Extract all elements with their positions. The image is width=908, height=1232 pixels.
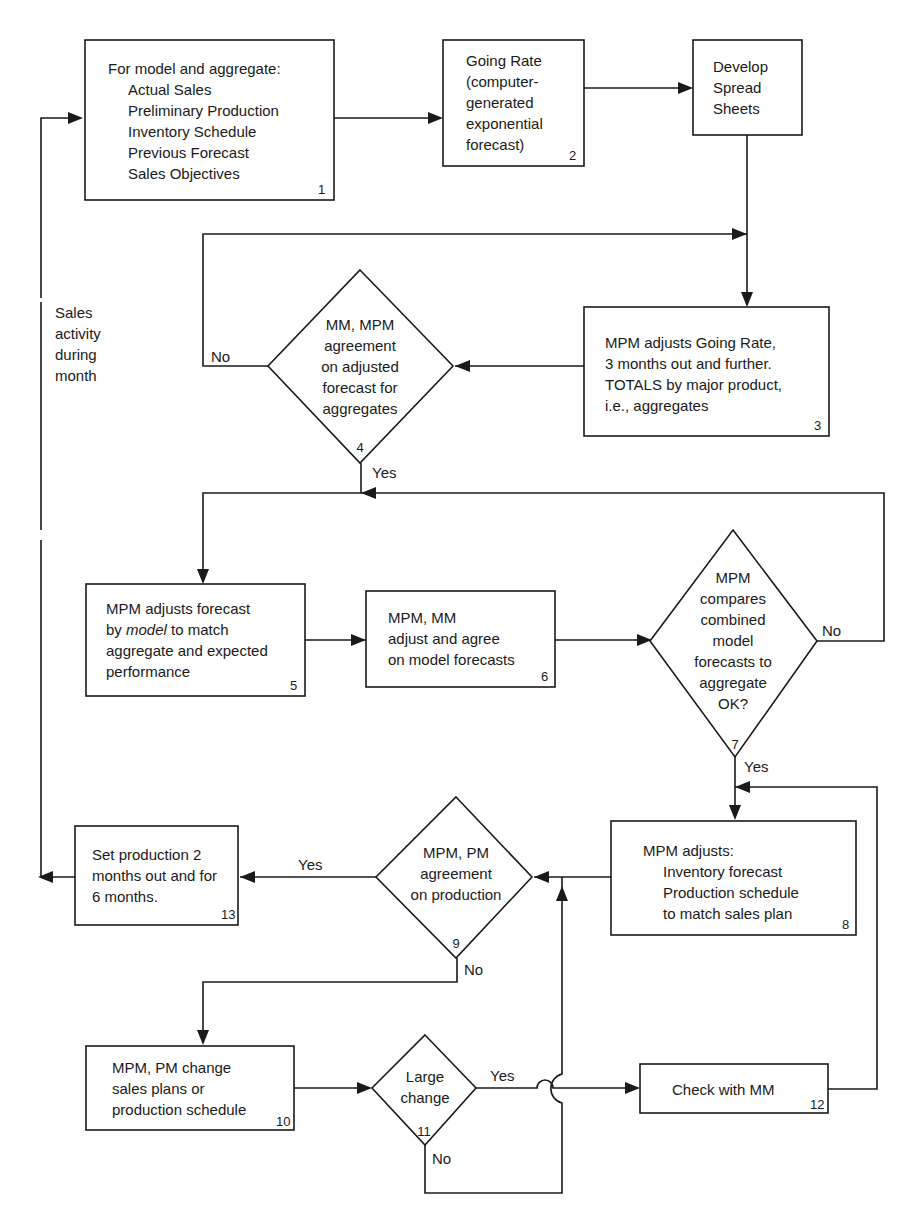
diamond-11-line: change: [400, 1089, 449, 1106]
arrow-into-4: [455, 360, 470, 372]
sales-activity-line: Sales: [55, 304, 93, 321]
box-13-line: Set production 2: [92, 846, 201, 863]
label-4-yes: Yes: [372, 464, 396, 481]
arrow-into-12: [625, 1082, 640, 1094]
step-number: 5: [290, 678, 297, 693]
box-5-line: MPM adjusts forecast: [106, 600, 251, 617]
diamond-7-line: forecasts to: [694, 653, 772, 670]
box-spread-line: Sheets: [713, 100, 760, 117]
label-7-yes: Yes: [744, 758, 768, 775]
box-12-line: Check with MM: [672, 1081, 775, 1098]
box-1-line: Actual Sales: [128, 81, 211, 98]
box-5-word: to match: [171, 621, 229, 638]
box-1-line: Preliminary Production: [128, 102, 279, 119]
diamond-7-line: model: [713, 632, 754, 649]
box-8-line: to match sales plan: [663, 905, 792, 922]
box-13-line: months out and for: [92, 867, 217, 884]
arrow-into-1: [68, 112, 83, 124]
label-9-yes: Yes: [298, 856, 322, 873]
box-1-line: Previous Forecast: [128, 144, 250, 161]
step-number: 4: [356, 440, 363, 455]
diamond-7-line: aggregate: [699, 674, 767, 691]
label-7-no: No: [822, 622, 841, 639]
edge-labels: No Yes No Yes Yes No Yes No: [211, 348, 841, 1167]
label-9-no: No: [464, 961, 483, 978]
arrow-up-to-9: [556, 886, 568, 901]
box-10-line: sales plans or: [112, 1080, 205, 1097]
arrow-into-8: [729, 805, 741, 820]
step-number: 12: [810, 1097, 824, 1112]
box-5-italic-word: model: [126, 621, 168, 638]
box-5-line: performance: [106, 663, 190, 680]
box-5-line: by model to match: [106, 621, 229, 638]
box-3-line: 3 months out and further.: [605, 355, 772, 372]
label-4-no: No: [211, 348, 230, 365]
step-number: 3: [814, 418, 821, 433]
box-1-line: Inventory Schedule: [128, 123, 256, 140]
step-number: 6: [541, 669, 548, 684]
box-2-line: Going Rate: [466, 52, 542, 69]
box-10-line: production schedule: [112, 1101, 246, 1118]
label-11-no: No: [432, 1150, 451, 1167]
diamond-4-line: on adjusted: [321, 358, 399, 375]
step-number: 13: [221, 907, 235, 922]
box-3-line: TOTALS by major product,: [605, 376, 782, 393]
diamond-11-text: Large change 11: [400, 1068, 449, 1139]
box-6-line: on model forecasts: [388, 651, 515, 668]
diamond-7-line: compares: [700, 590, 766, 607]
label-11-yes: Yes: [490, 1067, 514, 1084]
box-2-line: (computer-: [466, 73, 539, 90]
box-2-line: forecast): [466, 136, 524, 153]
sales-activity-label: Sales activity during month: [55, 304, 101, 384]
sales-activity-line: month: [55, 367, 97, 384]
arrow-loop-join: [732, 228, 747, 240]
step-number: 11: [417, 1124, 431, 1139]
box-3-line: i.e., aggregates: [605, 397, 708, 414]
sales-activity-line: activity: [55, 325, 101, 342]
step-number: 1: [318, 182, 325, 197]
arrow-into-13: [240, 871, 255, 883]
box-6-line: adjust and agree: [388, 630, 500, 647]
diamond-11-line: Large: [406, 1068, 444, 1085]
step-number: 7: [731, 737, 738, 752]
step-number: 8: [842, 917, 849, 932]
connector-9-no: [203, 958, 457, 1043]
diamond-7-line: combined: [700, 611, 765, 628]
box-10-line: MPM, PM change: [112, 1059, 231, 1076]
box-6-line: MPM, MM: [388, 609, 456, 626]
box-8-line: Inventory forecast: [663, 863, 783, 880]
arrow-into-10: [197, 1030, 209, 1045]
diamond-4-line: agreement: [324, 337, 397, 354]
box-8-line: Production schedule: [663, 884, 799, 901]
arrow-into-2: [428, 112, 443, 124]
box-2-line: exponential: [466, 115, 543, 132]
diamond-7-line: MPM: [716, 569, 751, 586]
arrow-into-5: [197, 569, 209, 584]
box-3-line: MPM adjusts Going Rate,: [605, 334, 776, 351]
box-5-word: by: [106, 621, 122, 638]
flowchart: For model and aggregate: Actual Sales Pr…: [0, 0, 908, 1232]
arrow-into-3: [741, 292, 753, 307]
step-number: 10: [276, 1114, 290, 1129]
box-5-line: aggregate and expected: [106, 642, 268, 659]
arrow-into-9: [534, 871, 549, 883]
arrow-join-5: [361, 487, 376, 499]
diamond-7-line: OK?: [718, 695, 748, 712]
diamond-9-line: MPM, PM: [423, 844, 489, 861]
diamond-4-line: MM, MPM: [326, 316, 394, 333]
diamond-4-line: aggregates: [322, 400, 397, 417]
box-spread-line: Spread: [713, 79, 761, 96]
diamond-4-line: forecast for: [322, 379, 397, 396]
arrow-join-8: [735, 781, 750, 793]
arrow-into-11: [357, 1082, 372, 1094]
sales-activity-line: during: [55, 346, 97, 363]
step-number: 9: [452, 936, 459, 951]
box-1-line: For model and aggregate:: [108, 60, 281, 77]
box-1-line: Sales Objectives: [128, 165, 240, 182]
diamond-9-line: agreement: [420, 865, 493, 882]
diamond-9-line: on production: [411, 886, 502, 903]
box-13-line: 6 months.: [92, 888, 158, 905]
box-spread-line: Develop: [713, 58, 768, 75]
arrow-into-spread: [678, 82, 693, 94]
box-2-line: generated: [466, 94, 534, 111]
